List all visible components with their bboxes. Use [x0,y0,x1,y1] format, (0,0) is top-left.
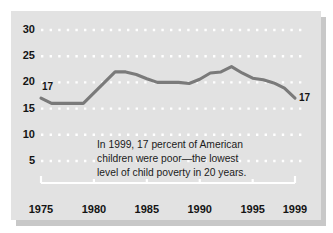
child-poverty-line-chart: 30252015105 197519801985199019951999 17 … [0,0,333,233]
chart-caption: In 1999, 17 percent of American children… [97,138,275,181]
end-value-label: 17 [299,92,310,103]
plot-area [11,11,321,220]
chart-panel: 30252015105 197519801985199019951999 17 … [11,11,321,220]
x-axis-tick-label: 1995 [233,203,273,215]
y-axis-tick-label: 30 [13,23,35,35]
x-axis-tick-label: 1999 [275,203,315,215]
caption-line-3: level of child poverty in 20 years. [97,166,275,180]
caption-line-1: In 1999, 17 percent of American [97,138,275,152]
x-axis-tick-label: 1980 [74,203,114,215]
caption-line-2: children were poor—the lowest [97,152,275,166]
y-axis-tick-label: 10 [13,128,35,140]
y-axis-tick-label: 20 [13,75,35,87]
y-axis-tick-label: 25 [13,49,35,61]
y-axis-tick-label: 5 [13,154,35,166]
x-axis-tick-label: 1990 [180,203,220,215]
y-axis-tick-label: 15 [13,102,35,114]
x-axis-tick-label: 1985 [127,203,167,215]
data-series-line [41,67,295,104]
start-value-label: 17 [42,81,53,92]
x-axis-tick-label: 1975 [21,203,61,215]
